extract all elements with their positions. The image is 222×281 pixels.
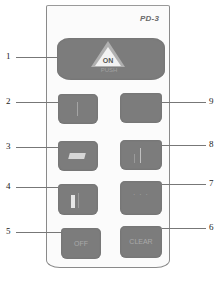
key-4[interactable] <box>58 184 98 215</box>
callout-line <box>162 184 206 185</box>
dots-icon: · · · <box>120 191 162 198</box>
arrow-shaft <box>134 154 135 163</box>
vertical-line-icon <box>77 102 78 116</box>
arrow-up-icon <box>140 148 141 163</box>
callout-line <box>162 228 206 229</box>
key-9[interactable] <box>120 93 162 123</box>
callout-line <box>162 145 206 146</box>
push-label: PUSH <box>93 67 125 73</box>
off-label: OFF <box>61 240 101 247</box>
callout-number: 5 <box>6 226 11 236</box>
callout-number: 6 <box>209 222 214 232</box>
bar-icon <box>71 195 75 208</box>
key-5-off[interactable]: OFF <box>61 228 101 259</box>
callout-number: 7 <box>209 178 214 188</box>
callout-number: 4 <box>6 181 11 191</box>
key-7[interactable]: · · · <box>120 181 162 215</box>
model-label: PD-3 <box>140 14 159 23</box>
key-8[interactable] <box>120 140 162 170</box>
key-2[interactable] <box>58 94 98 124</box>
callout-number: 3 <box>6 141 11 151</box>
callout-line <box>16 102 58 103</box>
bar-line <box>78 193 79 208</box>
callout-number: 1 <box>6 51 11 61</box>
on-label: ON <box>99 57 117 64</box>
callout-number: 8 <box>209 139 214 149</box>
clear-label: CLEAR <box>120 238 162 245</box>
callout-line <box>16 232 61 233</box>
callout-line <box>162 102 206 103</box>
callout-line <box>16 57 58 58</box>
key-6-clear[interactable]: CLEAR <box>120 226 162 258</box>
callout-line <box>16 147 58 148</box>
callout-number: 9 <box>209 96 214 106</box>
block-icon <box>68 153 86 159</box>
callout-number: 2 <box>6 96 11 106</box>
on-key[interactable]: ON PUSH <box>57 38 165 80</box>
key-3[interactable] <box>58 141 98 171</box>
callout-line <box>16 187 58 188</box>
